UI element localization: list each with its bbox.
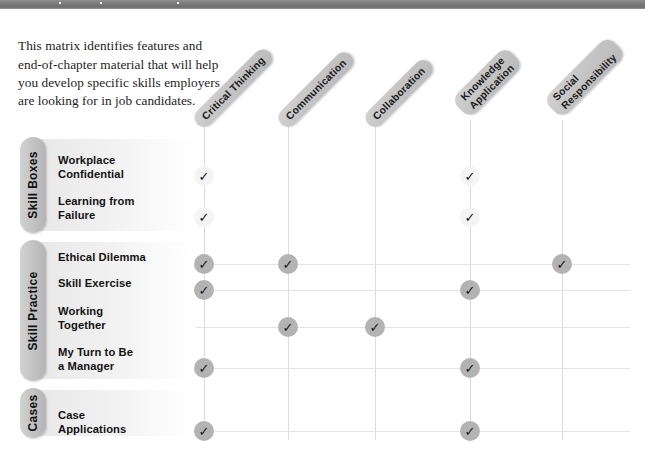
top-banner-bar <box>0 0 645 9</box>
group-label-skill-practice: Skill Practice <box>26 271 40 350</box>
row-label-case-applications[interactable]: Case Applications <box>58 409 126 436</box>
check-ethical-dilemma-communication[interactable]: ✓ <box>278 254 298 274</box>
check-skill-exercise-critical-thinking[interactable]: ✓ <box>194 280 214 300</box>
row-rule-working-together <box>150 327 630 328</box>
group-label-cases: Cases <box>26 395 40 432</box>
check-learning-from-failure-critical-thinking[interactable]: ✓ <box>194 207 214 227</box>
column-header-communication[interactable]: Communication <box>275 48 358 131</box>
banner-dot <box>177 2 179 4</box>
check-case-applications-knowledge-application[interactable]: ✓ <box>460 421 480 441</box>
column-rule-social-responsibility <box>562 120 563 440</box>
check-ethical-dilemma-critical-thinking[interactable]: ✓ <box>194 254 214 274</box>
check-learning-from-failure-knowledge-application[interactable]: ✓ <box>460 207 480 227</box>
group-pill-skill-practice[interactable]: Skill Practice <box>20 240 46 381</box>
column-header-knowledge-application[interactable]: KnowledgeApplication <box>451 46 524 119</box>
check-working-together-communication[interactable]: ✓ <box>278 317 298 337</box>
row-label-ethical-dilemma[interactable]: Ethical Dilemma <box>58 251 146 265</box>
group-pill-cases[interactable]: Cases <box>20 388 46 438</box>
row-rule-skill-exercise <box>150 290 630 291</box>
column-header-line: Collaboration <box>371 65 428 122</box>
column-rule-communication <box>288 120 289 440</box>
check-ethical-dilemma-social-responsibility[interactable]: ✓ <box>552 254 572 274</box>
row-label-working-together[interactable]: Working Together <box>58 305 106 332</box>
row-label-learning-from-failure[interactable]: Learning from Failure <box>58 195 135 222</box>
check-skill-exercise-knowledge-application[interactable]: ✓ <box>460 280 480 300</box>
row-label-workplace-confidential[interactable]: Workplace Confidential <box>58 154 124 181</box>
check-my-turn-to-be-a-manager-knowledge-application[interactable]: ✓ <box>460 358 480 378</box>
column-rule-collaboration <box>375 120 376 440</box>
banner-dot <box>100 2 102 4</box>
check-workplace-confidential-critical-thinking[interactable]: ✓ <box>194 166 214 186</box>
skills-matrix-page: This matrix identifies features and end-… <box>0 0 645 460</box>
check-working-together-collaboration[interactable]: ✓ <box>365 317 385 337</box>
check-case-applications-critical-thinking[interactable]: ✓ <box>194 421 214 441</box>
row-label-skill-exercise[interactable]: Skill Exercise <box>58 277 132 291</box>
column-header-line: Communication <box>284 57 349 122</box>
row-rule-case-applications <box>150 431 630 432</box>
row-label-my-turn-to-be-a-manager[interactable]: My Turn to Be a Manager <box>58 346 133 373</box>
group-pill-skill-boxes[interactable]: Skill Boxes <box>20 137 46 233</box>
row-rule-my-turn-to-be-a-manager <box>150 368 630 369</box>
column-header-social-responsibility[interactable]: SocialResponsibility <box>543 35 627 119</box>
check-my-turn-to-be-a-manager-critical-thinking[interactable]: ✓ <box>194 358 214 378</box>
intro-paragraph: This matrix identifies features and end-… <box>18 37 223 110</box>
group-label-skill-boxes: Skill Boxes <box>26 151 40 218</box>
check-workplace-confidential-knowledge-application[interactable]: ✓ <box>460 166 480 186</box>
column-header-collaboration[interactable]: Collaboration <box>362 56 437 131</box>
banner-dot <box>59 2 61 4</box>
